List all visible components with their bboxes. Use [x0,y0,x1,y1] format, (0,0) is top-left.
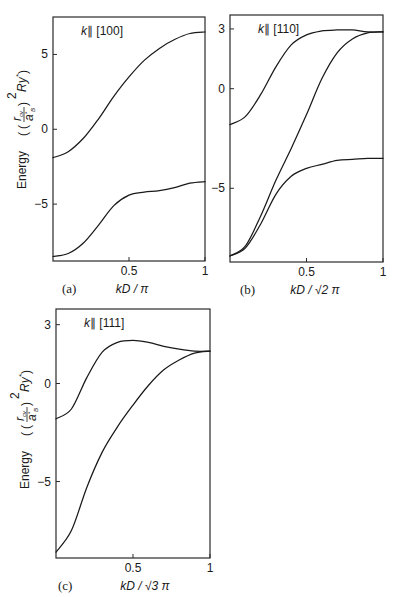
paren-close-outer-c: ) [19,370,33,374]
figure: 50−50.51k∥ [100](a)kD / πupper bandlower… [0,0,395,597]
band-curve: middle band [230,32,383,256]
x-tick-label: 1 [207,561,214,575]
x-tick-label: 1 [380,265,387,279]
panel-title: k∥ [111] [84,316,124,330]
y-axis-label-a: Energy ( ( rcv a*B ) 2 Ry* ) [5,70,36,189]
band-curve: upper band [53,32,205,158]
x-axis-label: kD / π [116,282,150,296]
plot-frame [56,309,210,558]
panel-a: 50−50.51k∥ [100](a)kD / πupper bandlower… [34,17,208,296]
ry-star: Ry* [14,73,29,92]
y-axis-word: Energy [15,151,29,189]
band-curve: lower band [230,158,383,256]
y-tick-label: 3 [44,318,51,332]
x-tick-label: 0.5 [298,265,315,279]
panel-b: 30−50.51k∥ [110](b)kD / √2 πupper bandmi… [211,15,386,297]
panel-letter: (c) [58,578,72,593]
squared-c: 2 [8,392,22,399]
squared: 2 [5,92,19,99]
y-tick-label: −5 [211,181,225,195]
x-axis-label: kD / √2 π [290,283,340,297]
paren-open-outer: ( [16,132,30,136]
x-tick-label: 0.5 [121,264,138,278]
band-curve: upper band [56,340,210,418]
panel-title: k∥ [100] [81,24,123,38]
paren-open-inner: ( [16,125,30,129]
x-tick-label: 0.5 [125,561,142,575]
panel-letter: (b) [240,282,255,297]
plot-frame [53,17,205,261]
panel-title: k∥ [110] [258,22,299,36]
plot-frame [230,15,383,262]
band-curve: lower band [56,351,210,552]
paren-close-inner: ) [16,102,30,106]
y-axis-word-c: Energy [18,451,32,489]
paren-close-inner-c: ) [19,402,33,406]
x-axis-label: kD / √3 π [120,579,170,593]
paren-close-outer: ) [16,70,30,74]
band-curve: upper band [230,30,383,125]
panel-c: 30−50.51k∥ [111](c)kD / √3 πupper bandlo… [37,309,213,593]
paren-open-inner-c: ( [19,425,33,429]
y-tick-label: 0 [218,82,225,96]
ry-star-c: Ry* [17,373,32,392]
paren-open-outer-c: ( [19,432,33,436]
y-axis-label-c: Energy ( ( rcv a*B ) 2 Ry* ) [8,370,39,489]
x-tick-label: 1 [202,264,209,278]
y-tick-label: 0 [41,122,48,136]
band-curve: lower band [53,182,205,257]
panel-letter: (a) [62,281,76,296]
y-tick-label: 5 [41,47,48,61]
y-tick-label: 3 [218,22,225,36]
y-tick-label: −5 [37,475,51,489]
y-tick-label: −5 [34,197,48,211]
y-tick-label: 0 [44,377,51,391]
